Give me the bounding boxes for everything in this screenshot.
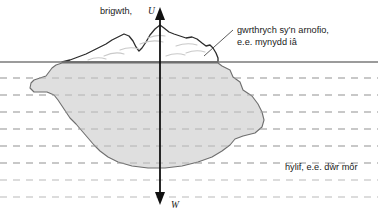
upthrust-symbol-label: U [148,6,156,16]
liquid-label: hylif, e.e. dŵr môr [285,162,358,172]
floating-object-label-line2: e.e. mynydd iâ [237,37,298,47]
floating-object-label-line1: gwrthrych sy’n arnofio, [237,25,329,35]
diagram-canvas: brigwth, U W gwrthrych sy’n arnofio, e.e… [0,0,378,218]
upthrust-label: brigwth, [100,6,132,16]
weight-symbol-label: W [171,200,180,210]
buoyancy-diagram: brigwth, U W gwrthrych sy’n arnofio, e.e… [0,0,378,218]
